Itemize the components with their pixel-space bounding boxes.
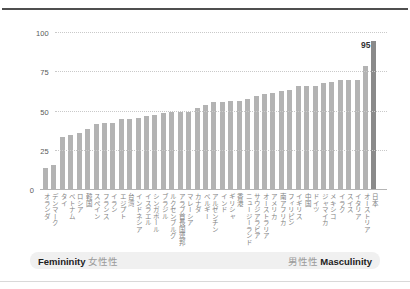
bar-category-label: ベルギー — [202, 193, 209, 219]
bar — [338, 80, 343, 190]
bar-column: アメリカ — [270, 33, 275, 190]
bar-column: ロシア — [77, 33, 82, 190]
bar-category-label: ルクセンブルグ — [169, 193, 176, 239]
bar-category-label: ロシア — [76, 193, 83, 213]
bar — [211, 102, 216, 190]
bar-category-label: タイ — [59, 193, 66, 206]
bar-category-label: サウジアラビア — [253, 193, 260, 239]
top-divider — [2, 8, 408, 10]
bar-column: ギリシャ — [228, 33, 233, 190]
bar-column: フィリピン — [287, 33, 292, 190]
bar-column: マレーシア — [186, 33, 191, 190]
bar-column: シンガポール — [152, 33, 157, 190]
bar-column: イラク — [338, 33, 343, 190]
bar — [161, 113, 166, 190]
bar-category-label: ジャマイカ — [320, 193, 327, 226]
bar — [102, 123, 107, 191]
bar-column: ブラジル — [161, 33, 166, 190]
masculinity-label-ja: 男性性 — [288, 256, 318, 267]
bar-column: イラン — [110, 33, 115, 190]
bar-column: カナダ — [195, 33, 200, 190]
bar — [127, 119, 132, 190]
bar-category-label: アルゼンチン — [211, 193, 218, 232]
bar-column: スペイン — [94, 33, 99, 190]
bar — [152, 115, 157, 190]
bar-column: 韓国 — [85, 33, 90, 190]
bar-category-label: イタリア — [354, 193, 361, 219]
bar — [270, 93, 275, 190]
bar-column: 中国 — [304, 33, 309, 190]
bar-category-label: 韓国 — [84, 193, 91, 206]
bar — [321, 83, 326, 190]
bar — [245, 99, 250, 190]
bar-chart-plot-area: オランダデンマークタイベトナムロシア韓国スペインフランスイランエジプト台湾インド… — [43, 33, 377, 190]
bar-column: ニュージーランド — [245, 33, 250, 190]
bar-column: メキシコ — [329, 33, 334, 190]
femininity-label-en: Femininity — [38, 256, 86, 267]
bar-column: イスラエル — [144, 33, 149, 190]
bar-category-label: カナダ — [194, 193, 201, 213]
masculinity-label-en: Masculinity — [320, 256, 372, 267]
bar-column: アルゼンチン — [211, 33, 216, 190]
bar-column: 南アフリカ — [279, 33, 284, 190]
bar-category-label: フランス — [101, 193, 108, 219]
bar — [94, 124, 99, 190]
masculinity-label-group: 男性性 Masculinity — [288, 254, 372, 268]
bar-column: タイ — [60, 33, 65, 190]
bar-value-label: 95 — [361, 40, 370, 50]
gridline-100: 100 — [55, 32, 387, 33]
bar — [228, 101, 233, 190]
bar — [144, 116, 149, 190]
y-tick-label-75: 75 — [40, 68, 49, 77]
bar-column: 香港 — [237, 33, 242, 190]
bar-column: イタリア — [355, 33, 360, 190]
bar-category-label: 香港 — [236, 193, 243, 206]
bar-category-label: イスラエル — [143, 193, 150, 226]
bar — [110, 123, 115, 191]
gridline-75: 75 — [55, 71, 387, 72]
bar — [169, 112, 174, 191]
bar-column: オーストリア — [363, 33, 368, 190]
bar-category-label: エジプト — [118, 193, 125, 219]
bar — [363, 66, 368, 190]
bar-column: 95日本 — [371, 33, 376, 190]
bar — [85, 129, 90, 190]
bar-category-label: インド — [219, 193, 226, 213]
bar — [371, 41, 376, 190]
bar-category-label: シンガポール — [152, 193, 159, 232]
bar — [237, 101, 242, 190]
bar-category-label: インドネシア — [135, 193, 142, 232]
bar-category-label: ブラジル — [160, 193, 167, 219]
bar-column: 台湾 — [127, 33, 132, 190]
bar — [304, 86, 309, 190]
bar-category-label: オーストリア — [362, 193, 369, 232]
bar — [186, 112, 191, 191]
bar-category-label: メキシコ — [329, 193, 336, 219]
bar-category-label: ギリシャ — [228, 193, 235, 219]
bar-category-label: スペイン — [93, 193, 100, 219]
bar-column: ベトナム — [68, 33, 73, 190]
bar — [279, 91, 284, 190]
bar-category-label: ベトナム — [68, 193, 75, 219]
bar — [329, 82, 334, 190]
bar-category-label: 南アフリカ — [278, 193, 285, 226]
bar-category-label: ニュージーランド — [244, 193, 251, 245]
bar-column: スイス — [346, 33, 351, 190]
bar-category-label: 中国 — [303, 193, 310, 206]
bar-category-label: オーストラリア — [261, 193, 268, 239]
bar — [287, 90, 292, 190]
bar-column: サウジアラビア — [254, 33, 259, 190]
bar-column: アラブ首長国連邦 — [178, 33, 183, 190]
bar — [51, 165, 56, 190]
bar-category-label: アメリカ — [270, 193, 277, 219]
bar-category-label: イギリス — [295, 193, 302, 219]
bar — [119, 119, 124, 190]
bars-container: オランダデンマークタイベトナムロシア韓国スペインフランスイランエジプト台湾インド… — [43, 33, 377, 190]
bar-column: ルクセンブルグ — [169, 33, 174, 190]
bar-column: イギリス — [296, 33, 301, 190]
bar-category-label: デンマーク — [51, 193, 58, 226]
bar — [313, 86, 318, 190]
bar-category-label: アラブ首長国連邦 — [177, 193, 184, 245]
bar-category-label: オランダ — [42, 193, 49, 219]
y-tick-label-0: 0 — [30, 186, 34, 195]
